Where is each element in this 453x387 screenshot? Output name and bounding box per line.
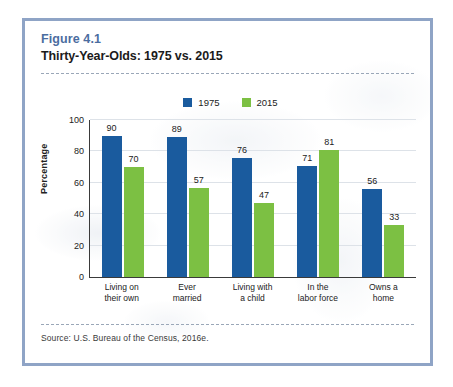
source-note: Source: U.S. Bureau of the Census, 2016e…: [41, 333, 209, 343]
y-axis-tick: 20: [74, 241, 84, 251]
bar-2015: 47: [254, 203, 274, 277]
y-axis-tick: 100: [69, 115, 84, 125]
figure-card: Figure 4.1 Thirty-Year-Olds: 1975 vs. 20…: [22, 18, 433, 366]
bar-value-label: 71: [302, 154, 312, 163]
bar-groups: 90708957764771815633: [90, 120, 416, 277]
bar-group: 5633: [362, 120, 404, 277]
legend-label-2015: 2015: [257, 97, 278, 108]
x-axis-categories: Living ontheir ownEvermarriedLiving with…: [89, 278, 416, 316]
legend-swatch-2015: [242, 98, 251, 107]
bar-value-label: 56: [367, 177, 377, 186]
bar-group: 8957: [167, 120, 209, 277]
bar-1975: 56: [362, 189, 382, 277]
bar-value-label: 90: [107, 124, 117, 133]
x-axis-category-label: Owns ahome: [351, 282, 416, 303]
bar-1975: 76: [232, 158, 252, 277]
bar-1975: 89: [167, 137, 187, 277]
bar-2015: 70: [124, 167, 144, 277]
x-axis-category-label: In thelabor force: [285, 282, 350, 303]
bar-2015: 33: [384, 225, 404, 277]
bar-2015: 57: [189, 188, 209, 277]
bar-chart: Percentage 020406080100 9070895776477181…: [41, 116, 420, 316]
plot-area: 020406080100 90708957764771815633: [89, 120, 416, 278]
bar-1975: 71: [297, 166, 317, 277]
bar-value-label: 81: [324, 138, 334, 147]
x-axis-category-label: Living ontheir own: [89, 282, 154, 303]
bar-value-label: 89: [172, 125, 182, 134]
y-axis-label: Percentage: [39, 143, 49, 194]
y-axis-tick: 60: [74, 178, 84, 188]
chart-legend: 19752015: [25, 97, 436, 108]
y-axis-tick: 0: [79, 272, 84, 282]
x-axis-category-label: Evermarried: [154, 282, 219, 303]
bar-group: 7181: [297, 120, 339, 277]
bar-value-label: 33: [389, 213, 399, 222]
divider-top: [41, 73, 414, 74]
bar-group: 9070: [102, 120, 144, 277]
divider-bottom: [41, 324, 414, 325]
bar-2015: 81: [319, 150, 339, 277]
x-axis-category-label: Living witha child: [220, 282, 285, 303]
legend-label-1975: 1975: [198, 97, 219, 108]
bar-value-label: 70: [129, 155, 139, 164]
y-axis-tick: 80: [74, 146, 84, 156]
bar-1975: 90: [102, 136, 122, 277]
bar-value-label: 57: [194, 176, 204, 185]
bar-value-label: 76: [237, 146, 247, 155]
legend-item-2015: 2015: [242, 97, 278, 108]
legend-swatch-1975: [183, 98, 192, 107]
figure-number: Figure 4.1: [41, 32, 101, 46]
bar-value-label: 47: [259, 191, 269, 200]
legend-item-1975: 1975: [183, 97, 219, 108]
bar-group: 7647: [232, 120, 274, 277]
y-axis-tick: 40: [74, 209, 84, 219]
figure-title: Thirty-Year-Olds: 1975 vs. 2015: [41, 49, 223, 63]
